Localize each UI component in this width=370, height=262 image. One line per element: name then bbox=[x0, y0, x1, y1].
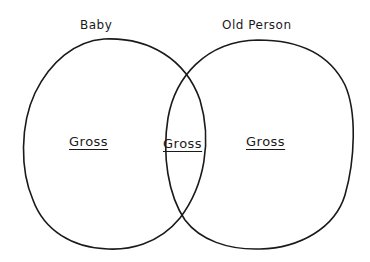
set-label-old-person: Old Person bbox=[222, 18, 292, 32]
venn-diagram: Baby Old Person Gross Gross Gross bbox=[0, 0, 370, 262]
venn-circles bbox=[0, 0, 370, 262]
region-label-intersection: Gross bbox=[163, 136, 202, 151]
region-label-intersection-text: Gross bbox=[163, 136, 202, 151]
region-label-old-person-only: Gross bbox=[246, 134, 285, 149]
set-label-baby: Baby bbox=[80, 18, 112, 32]
region-label-baby-only-text: Gross bbox=[69, 134, 108, 149]
region-label-old-person-only-text: Gross bbox=[246, 134, 285, 149]
region-label-baby-only: Gross bbox=[69, 134, 108, 149]
